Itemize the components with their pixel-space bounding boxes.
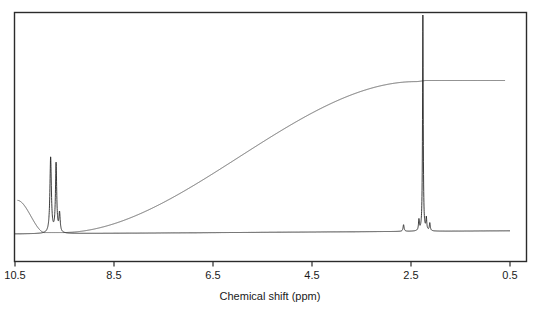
figure-background xyxy=(0,0,538,320)
axis-tick-label: 4.5 xyxy=(304,269,319,281)
axis-tick-label: 6.5 xyxy=(205,269,220,281)
axis-tick-label: 0.5 xyxy=(502,269,517,281)
axis-tick-label: 8.5 xyxy=(106,269,121,281)
spectrum-canvas: 10.58.56.54.52.50.5 Chemical shift (ppm) xyxy=(0,0,538,320)
x-axis-title: Chemical shift (ppm) xyxy=(220,290,321,302)
nmr-spectrum-figure: 10.58.56.54.52.50.5 Chemical shift (ppm) xyxy=(0,0,538,320)
axis-tick-label: 2.5 xyxy=(403,269,418,281)
axis-tick-label: 10.5 xyxy=(4,269,25,281)
